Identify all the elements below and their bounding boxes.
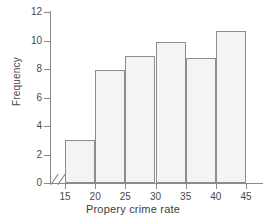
histogram-bar xyxy=(186,58,216,183)
x-tick-35 xyxy=(186,184,187,189)
y-tick-0 xyxy=(44,183,50,184)
y-tick-10 xyxy=(44,41,50,42)
x-tick-25 xyxy=(125,184,126,189)
x-tick-label-35: 35 xyxy=(171,191,201,202)
histogram-bar xyxy=(216,31,246,183)
x-tick-label-20: 20 xyxy=(80,191,110,202)
x-tick-label-45: 45 xyxy=(231,191,261,202)
y-tick-label-6: 6 xyxy=(20,92,42,104)
y-tick-6 xyxy=(44,98,50,99)
y-tick-label-0: 0 xyxy=(20,177,42,189)
x-tick-label-15: 15 xyxy=(50,191,80,202)
y-tick-label-8: 8 xyxy=(20,63,42,75)
x-tick-15 xyxy=(65,184,66,189)
x-tick-40 xyxy=(216,184,217,189)
y-tick-8 xyxy=(44,69,50,70)
y-tick-4 xyxy=(44,126,50,127)
x-tick-label-40: 40 xyxy=(201,191,231,202)
x-tick-45 xyxy=(246,184,247,189)
histogram-bar xyxy=(125,56,155,183)
y-tick-2 xyxy=(44,155,50,156)
y-tick-label-12: 12 xyxy=(20,6,42,18)
y-tick-label-10: 10 xyxy=(20,35,42,47)
histogram-bar xyxy=(156,42,186,183)
y-tick-label-4: 4 xyxy=(20,120,42,132)
x-tick-label-25: 25 xyxy=(110,191,140,202)
histogram-bar xyxy=(65,140,95,183)
y-axis-line xyxy=(50,11,51,183)
y-axis-title: Frequency xyxy=(11,34,22,130)
y-tick-12 xyxy=(44,12,50,13)
x-axis-line xyxy=(50,183,263,184)
histogram-bar xyxy=(95,70,125,183)
x-tick-20 xyxy=(95,184,96,189)
x-tick-label-30: 30 xyxy=(141,191,171,202)
x-tick-30 xyxy=(156,184,157,189)
y-tick-label-2: 2 xyxy=(20,149,42,161)
histogram-figure: Frequency 024681012 15202530354045 Prope… xyxy=(0,0,266,221)
x-axis-title: Propery crime rate xyxy=(0,203,266,215)
